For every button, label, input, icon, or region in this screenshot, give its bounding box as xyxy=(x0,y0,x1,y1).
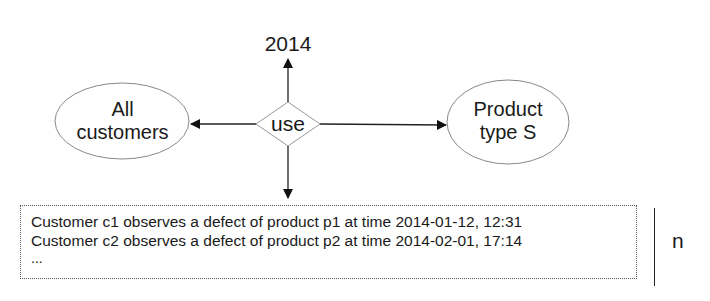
multiplicity-label: n xyxy=(672,229,684,253)
record-ellipsis: ... xyxy=(31,250,626,266)
entity-product-type-s-label: Product type S xyxy=(447,98,569,144)
relationship-use-label: use xyxy=(258,112,318,135)
record-line: Customer c1 observes a defect of product… xyxy=(31,212,626,231)
entity-product-line2: type S xyxy=(447,121,569,144)
records-box: Customer c1 observes a defect of product… xyxy=(20,205,637,279)
entity-product-line1: Product xyxy=(447,98,569,121)
record-line: Customer c2 observes a defect of product… xyxy=(31,231,626,250)
entity-all-customers-label: All customers xyxy=(55,98,190,144)
time-label: 2014 xyxy=(258,32,318,55)
arrow-to-product xyxy=(320,124,446,125)
entity-all-customers-line2: customers xyxy=(55,121,190,144)
multiplicity-divider xyxy=(654,208,655,286)
entity-all-customers-line1: All xyxy=(55,98,190,121)
